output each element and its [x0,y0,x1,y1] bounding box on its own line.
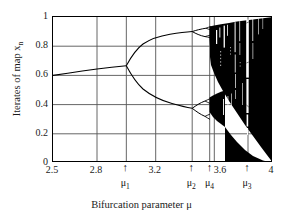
y-tick-06: 0.6 [24,69,48,79]
y-tick-08: 0.8 [24,40,48,50]
period2-lower-branch [126,66,192,109]
y-tick-02: 0.2 [24,128,48,138]
y-axis-tick-labels: 1 0.8 0.6 0.4 0.2 0 [24,16,48,162]
bifurcation-data [53,17,272,162]
period4-upper-b [192,32,205,37]
mu-markers: ↑ μ1 ↑ μ2 ↑ μ4 ↑ μ3 [52,162,272,192]
mu3-marker: ↑ μ3 [236,162,258,193]
bifurcation-diagram-figure: Iterates of map xn 1 0.8 0.6 0.4 0.2 0 [0,0,283,216]
y-axis-title: Iterates of map xn [10,0,24,168]
y-tick-0: 0 [24,157,48,167]
y-tick-1: 1 [24,11,48,21]
mu4-label-subscript: 4 [210,182,214,191]
period4-upper-a [192,28,206,31]
y-axis-title-text: Iterates of map x [11,45,22,116]
mu1-label: μ1 [114,177,136,193]
plot-area [52,16,272,162]
mu3-label: μ3 [236,177,258,193]
mu1-marker: ↑ μ1 [114,162,136,193]
y-tick-04: 0.4 [24,99,48,109]
mu4-arrow-icon: ↑ [199,162,221,172]
mu1-label-subscript: 1 [126,182,130,191]
chaotic-band-lower-tongue [210,90,226,127]
period4-lower-b [192,108,205,116]
mu3-arrow-icon: ↑ [236,162,258,172]
mu1-arrow-icon: ↑ [114,162,136,172]
x-axis-title: Bifurcation parameter μ [0,198,283,211]
mu2-label-subscript: 2 [192,182,196,191]
mu3-label-subscript: 3 [248,182,252,191]
mu4-marker: ↑ μ4 [199,162,221,193]
chaotic-band-upper [210,17,273,162]
period1-branch [53,66,126,76]
period2-upper-branch [126,32,192,66]
mu4-label: μ4 [199,177,221,193]
